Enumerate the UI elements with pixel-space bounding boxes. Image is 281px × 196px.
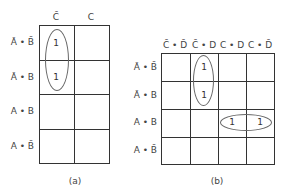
row-header-a-2: A • B bbox=[11, 106, 34, 116]
caption-b: (b) bbox=[211, 176, 224, 186]
row-header-b-2: A • B bbox=[134, 117, 157, 127]
col-header-a-0: C̄ bbox=[53, 12, 59, 22]
group-loop-b-1 bbox=[220, 114, 272, 131]
col-header-b-3: C • D̄ bbox=[248, 40, 272, 50]
row-header-b-1: Ā • B bbox=[134, 90, 157, 100]
group-loop-a-0 bbox=[45, 29, 69, 91]
row-header-b-0: Ā • B̄ bbox=[134, 62, 157, 72]
col-header-b-0: C̄ • D̄ bbox=[163, 40, 187, 50]
row-header-b-3: A • B̄ bbox=[134, 145, 157, 155]
row-header-a-0: Ā • B̄ bbox=[11, 37, 34, 47]
row-header-a-3: A • B̄ bbox=[11, 141, 34, 151]
col-header-b-1: C̄ • D bbox=[192, 40, 216, 50]
row-header-a-1: Ā • B bbox=[11, 72, 34, 82]
kmap-b-grid bbox=[161, 53, 275, 165]
col-header-b-2: C • D bbox=[220, 40, 244, 50]
caption-a: (a) bbox=[69, 176, 82, 186]
col-header-a-1: C bbox=[88, 12, 94, 22]
group-loop-b-0 bbox=[193, 55, 214, 106]
